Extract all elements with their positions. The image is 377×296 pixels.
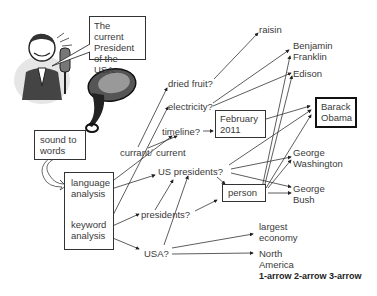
currant-label: currant — [120, 147, 150, 158]
benjamin-franklin-label: Benjamin Franklin — [293, 40, 348, 62]
raisin-label: raisin — [259, 24, 282, 35]
february-2011-box: February 2011 — [215, 110, 266, 138]
speech-bubble-tail — [50, 40, 92, 70]
electricity-label: electricity? — [168, 101, 213, 112]
george-washington-label: George Washington — [293, 147, 358, 169]
ear-trumpet-illustration — [78, 65, 140, 135]
barack-obama-label: Barack Obama — [321, 101, 352, 123]
edison-label: Edison — [293, 68, 322, 79]
timeline-label: timeline? — [162, 126, 200, 137]
north-america-label: North America — [259, 248, 304, 270]
person-label: person — [228, 187, 257, 198]
current-label: current — [156, 147, 186, 158]
february-2011-label: February 2011 — [220, 113, 258, 135]
usa-label: USA? — [144, 248, 169, 259]
largest-economy-label: largest economy — [259, 221, 309, 243]
analysis-box: language analysis keyword analysis — [64, 172, 114, 250]
sound-to-words-box: sound to words — [34, 130, 86, 160]
presidents-label: presidents? — [141, 209, 190, 220]
speech-bubble: The current President of the USA. — [89, 16, 146, 60]
keyword-analysis-label: keyword analysis — [71, 219, 113, 241]
us-presidents-label: US presidents? — [158, 166, 223, 177]
dried-fruit-label: dried fruit? — [168, 78, 213, 89]
barack-obama-box: Barack Obama — [315, 97, 357, 128]
slash-separator: / — [150, 147, 153, 158]
person-box: person — [222, 184, 266, 202]
sound-to-words-label: sound to words — [40, 134, 76, 156]
arrow-legend: 1-arrow 2-arrow 3-arrow — [259, 271, 362, 281]
george-bush-label: George Bush — [293, 183, 333, 205]
language-analysis-label: language analysis — [71, 177, 113, 199]
